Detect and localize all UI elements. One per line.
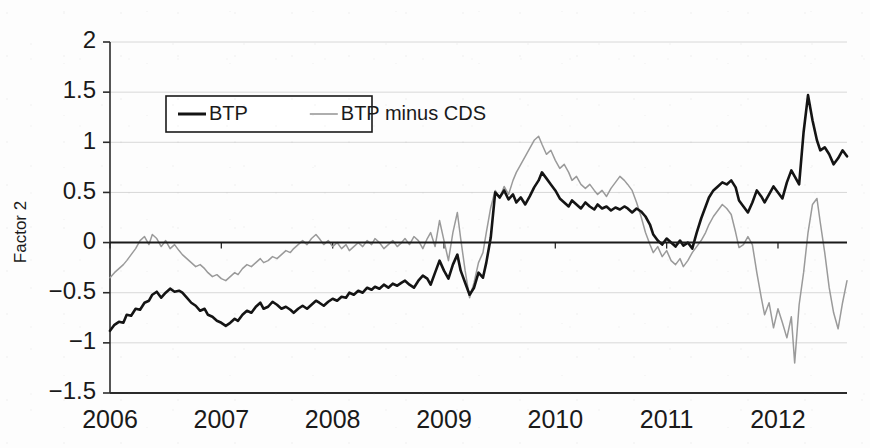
y-tick-label: 1 [83, 127, 96, 154]
y-tick-labels: 21.510.50−0.5−1−1.5 [49, 26, 96, 404]
x-tick-label: 2006 [82, 405, 138, 433]
chart-figure: 21.510.50−0.5−1−1.5 20062007200820092010… [0, 0, 870, 448]
x-tick-label: 2011 [640, 405, 694, 433]
y-tick-label: 0.5 [63, 177, 96, 204]
y-tick-label: 2 [83, 26, 96, 53]
y-tick-label: −0.5 [49, 277, 96, 304]
x-tick-label: 2007 [194, 405, 250, 433]
y-tick-label: −1.5 [49, 377, 96, 404]
x-tick-label: 2010 [528, 405, 584, 433]
series-layer [110, 95, 847, 363]
y-tick-label: −1 [69, 327, 96, 354]
y-tick-label: 1.5 [63, 76, 96, 103]
y-tick-label: 0 [83, 227, 96, 254]
y-axis-label: Factor 2 [11, 201, 30, 263]
x-tick-label: 2008 [305, 405, 361, 433]
gridlines [110, 42, 847, 393]
factor2-line-chart: 21.510.50−0.5−1−1.5 20062007200820092010… [0, 0, 870, 448]
axes [103, 42, 847, 393]
x-tick-labels: 2006200720082009201020112012 [82, 405, 806, 433]
legend-label-1: BTP minus CDS [341, 102, 486, 124]
x-tick-label: 2012 [750, 405, 806, 433]
x-tick-label: 2009 [416, 405, 472, 433]
series-line-btp-minus-cds [110, 136, 847, 363]
chart-legend[interactable]: BTPBTP minus CDS [166, 96, 486, 132]
legend-label-0: BTP [209, 102, 248, 124]
